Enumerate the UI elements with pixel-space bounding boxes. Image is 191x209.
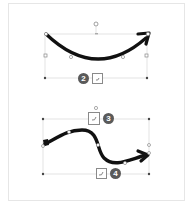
corner-handle-bl[interactable]: [42, 173, 44, 175]
layout-options-icon: [89, 113, 99, 124]
callout-badge-3: 3: [103, 113, 114, 124]
curve-point-handle[interactable]: [121, 55, 124, 58]
endpoint-handle-start[interactable]: [42, 145, 45, 148]
corner-handle-br[interactable]: [146, 77, 148, 79]
adjust-handle[interactable]: [148, 144, 151, 147]
corner-handle-tl[interactable]: [42, 118, 44, 120]
callout-badge-4: 4: [110, 168, 121, 179]
curve-point-handle[interactable]: [67, 130, 70, 133]
left-mid-handle[interactable]: [44, 54, 47, 57]
curved-arrow[interactable]: [46, 34, 146, 59]
endpoint-handle-start[interactable]: [44, 32, 47, 35]
curve-point-handle[interactable]: [123, 161, 126, 164]
endpoint-handle-end[interactable]: [148, 152, 151, 155]
top-mid-handle[interactable]: [95, 33, 98, 34]
selection-box: [43, 119, 149, 174]
curve-point-handle[interactable]: [69, 55, 72, 58]
layout-options-button[interactable]: [92, 73, 103, 84]
right-mid-handle[interactable]: [145, 54, 148, 57]
layout-options-icon: [93, 74, 102, 83]
rotate-handle[interactable]: [94, 106, 97, 109]
corner-handle-bl[interactable]: [44, 77, 46, 79]
layout-options-button[interactable]: [96, 168, 107, 179]
shape-curved-arrow-top[interactable]: [44, 22, 150, 79]
curve-point-handle[interactable]: [96, 143, 99, 146]
endpoint-handle-end[interactable]: [146, 32, 150, 36]
s-curve-arrow[interactable]: [45, 130, 146, 163]
selection-box: [45, 34, 147, 78]
rotate-handle[interactable]: [94, 22, 98, 26]
corner-handle-br[interactable]: [148, 173, 150, 175]
corner-handle-tr[interactable]: [148, 118, 150, 120]
layout-options-button[interactable]: [88, 112, 100, 125]
layout-options-icon: [97, 169, 106, 178]
callout-badge-2: 2: [78, 73, 89, 84]
